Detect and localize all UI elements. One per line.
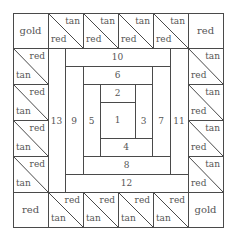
corner-bottom-right-label: gold bbox=[194, 205, 216, 215]
right-border-2-upper: tan bbox=[205, 124, 220, 133]
log-7-label: 7 bbox=[158, 117, 164, 126]
left-border-3-upper: red bbox=[30, 160, 45, 169]
corner-top-right-label: red bbox=[197, 26, 214, 36]
bottom-border-2-upper: red bbox=[135, 196, 150, 205]
top-border-0-lower: red bbox=[51, 35, 66, 44]
log-4-label: 4 bbox=[123, 143, 129, 152]
top-border-3-upper: tan bbox=[170, 17, 185, 26]
top-border-3-lower: red bbox=[156, 35, 171, 44]
right-border-3-upper: tan bbox=[205, 160, 220, 169]
left-border-3-lower: tan bbox=[16, 179, 31, 188]
left-border-0-lower: tan bbox=[16, 71, 31, 80]
corner-bottom-left-label: red bbox=[22, 205, 39, 215]
log-piece-11 bbox=[171, 49, 189, 175]
right-border-1-upper: tan bbox=[205, 88, 220, 97]
log-5-label: 5 bbox=[89, 117, 95, 126]
top-border-0-upper: tan bbox=[65, 17, 80, 26]
log-piece-3 bbox=[136, 85, 153, 139]
bottom-border-0-lower: tan bbox=[51, 214, 66, 223]
log-3-label: 3 bbox=[141, 117, 147, 126]
right-border-3-lower: red bbox=[191, 179, 206, 188]
bottom-border-1-upper: red bbox=[100, 196, 115, 205]
log-9-label: 9 bbox=[71, 117, 77, 126]
corner-top-left-label: gold bbox=[19, 26, 41, 36]
log-13-label: 13 bbox=[51, 117, 62, 126]
top-border-1-lower: red bbox=[86, 35, 101, 44]
log-2-label: 2 bbox=[115, 89, 121, 98]
top-border-2-lower: red bbox=[121, 35, 136, 44]
log-8-label: 8 bbox=[124, 161, 130, 170]
right-border-0-upper: tan bbox=[205, 52, 220, 61]
top-border-2-upper: tan bbox=[135, 17, 150, 26]
log-piece-7 bbox=[153, 67, 171, 157]
left-border-0-upper: red bbox=[30, 52, 45, 61]
left-border-2-lower: tan bbox=[16, 143, 31, 152]
bottom-border-1-lower: tan bbox=[86, 214, 101, 223]
left-border-1-lower: tan bbox=[16, 107, 31, 116]
left-border-2-upper: red bbox=[30, 124, 45, 133]
log-10-label: 10 bbox=[112, 53, 123, 62]
bottom-border-0-upper: red bbox=[65, 196, 80, 205]
top-border-1-upper: tan bbox=[100, 17, 115, 26]
log-11-label: 11 bbox=[173, 117, 184, 126]
bottom-border-3-upper: red bbox=[170, 196, 185, 205]
log-1-label: 1 bbox=[115, 116, 121, 125]
bottom-border-2-lower: tan bbox=[121, 214, 136, 223]
log-6-label: 6 bbox=[115, 71, 121, 80]
left-border-1-upper: red bbox=[30, 88, 45, 97]
right-border-0-lower: red bbox=[191, 71, 206, 80]
right-border-2-lower: red bbox=[191, 143, 206, 152]
bottom-border-3-lower: tan bbox=[156, 214, 171, 223]
right-border-1-lower: red bbox=[191, 107, 206, 116]
log-12-label: 12 bbox=[121, 179, 132, 188]
